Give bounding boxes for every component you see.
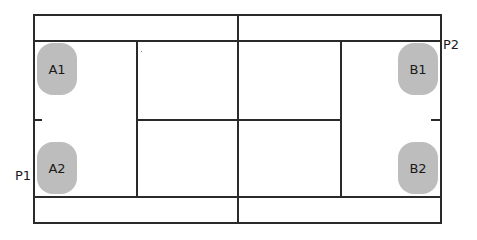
player-b2-label: B2	[409, 161, 426, 176]
player-b1-label: B1	[409, 62, 426, 77]
left-center-mark	[33, 119, 42, 121]
player-a1-label: A1	[48, 62, 65, 77]
stray-dot	[141, 51, 142, 52]
player-a2-label: A2	[48, 161, 65, 176]
player-a2: A2	[37, 142, 77, 194]
point-p1-label: P1	[15, 168, 31, 183]
player-b1: B1	[398, 43, 438, 95]
player-b2: B2	[398, 142, 438, 194]
player-a1: A1	[37, 43, 77, 95]
center-service-line	[136, 119, 342, 121]
point-p2-label: P2	[443, 37, 459, 52]
right-center-mark	[431, 119, 441, 121]
